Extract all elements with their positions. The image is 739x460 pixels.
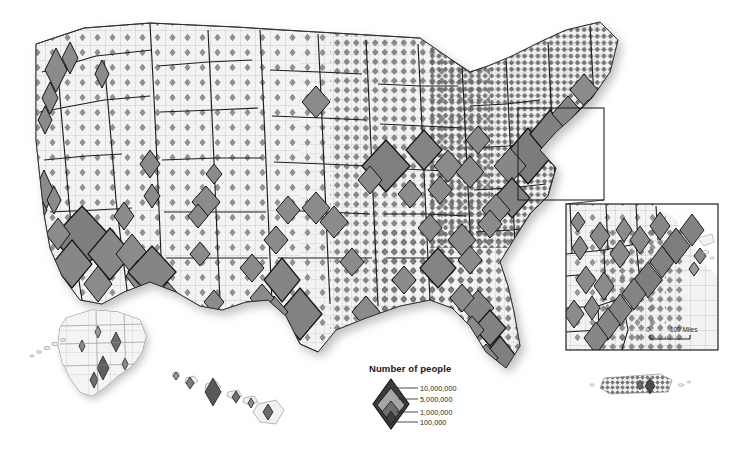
inset-northeast-detail: 0 100 Miles	[564, 204, 718, 354]
legend-label-1m: 1,000,000	[420, 408, 452, 417]
legend-label-5m: 5,000,000	[420, 395, 452, 404]
legend-label-100k: 100,000	[420, 418, 446, 427]
legend-label-10m: 10,000,000	[420, 384, 456, 393]
us-population-map: 0 100 Miles Number of people 10,000,000 …	[0, 0, 739, 460]
scale-bar-zero-label: 0	[646, 326, 650, 333]
map-figure: 0 100 Miles Number of people 10,000,000 …	[0, 0, 739, 460]
legend-title: Number of people	[369, 363, 451, 374]
scale-bar-distance-label: 100 Miles	[670, 326, 697, 333]
